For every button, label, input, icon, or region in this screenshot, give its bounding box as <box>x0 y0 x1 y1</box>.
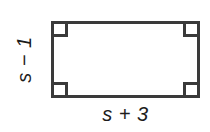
right-angle-mark-bottom-right-icon <box>183 82 200 98</box>
right-angle-mark-bottom-left-icon <box>51 82 68 98</box>
geometry-figure: s − 1 s + 3 <box>0 0 210 132</box>
rectangle-shape <box>51 21 200 98</box>
right-angle-mark-top-left-icon <box>51 21 68 37</box>
height-label-text: s − 1 <box>12 36 35 82</box>
width-label: s + 3 <box>51 99 200 129</box>
width-label-text: s + 3 <box>102 103 148 126</box>
right-angle-mark-top-right-icon <box>183 21 200 37</box>
height-label: s − 1 <box>0 0 48 119</box>
